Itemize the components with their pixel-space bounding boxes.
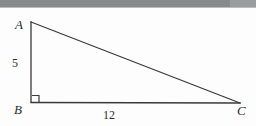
right-angle-marker-icon (32, 96, 39, 103)
figure-container: A B C 5 12 (0, 0, 256, 126)
triangle-drawing (0, 0, 256, 126)
vertex-label-a: A (15, 18, 23, 31)
triangle-side-bc (31, 103, 240, 104)
triangle-side-ac (31, 22, 240, 103)
side-length-label-ab: 5 (12, 57, 18, 69)
vertex-label-b: B (14, 103, 22, 116)
side-length-label-bc: 12 (103, 109, 115, 121)
vertex-label-c: C (237, 104, 246, 117)
